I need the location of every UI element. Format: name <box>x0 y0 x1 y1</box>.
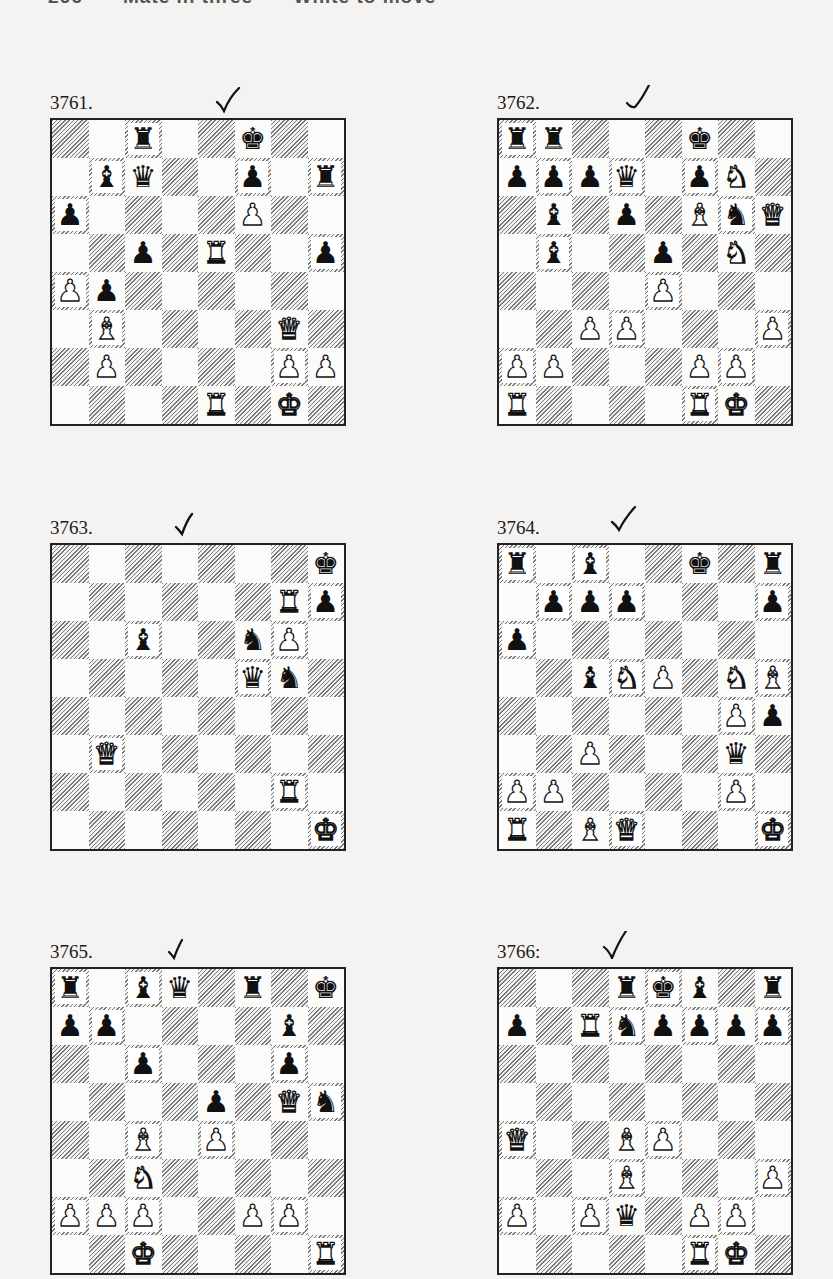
black-rook-icon: ♜ <box>239 973 266 1003</box>
square-a4 <box>52 1121 89 1159</box>
square-b4 <box>536 697 573 735</box>
black-rook-icon: ♜ <box>504 124 531 154</box>
black-knight-icon: ♞ <box>276 663 303 693</box>
square-d5: ♞ <box>609 659 646 697</box>
square-d6: ♟ <box>609 196 646 234</box>
square-b2 <box>536 1197 573 1235</box>
black-pawn-icon: ♟ <box>686 162 713 192</box>
square-b1 <box>536 386 573 424</box>
square-e8 <box>645 120 682 158</box>
square-d3 <box>162 310 199 348</box>
black-pawn-icon: ♟ <box>613 200 640 230</box>
square-b7 <box>536 1007 573 1045</box>
white-rook-icon: ♜ <box>504 390 531 420</box>
black-queen-icon: ♛ <box>166 973 193 1003</box>
square-b2: ♟ <box>536 348 573 386</box>
square-f8: ♚ <box>682 120 719 158</box>
square-h2: ♟ <box>308 348 345 386</box>
black-queen-icon: ♛ <box>613 1201 640 1231</box>
square-a8 <box>499 969 536 1007</box>
page-header: 266 Mate in three White to move <box>48 0 470 8</box>
square-b2: ♟ <box>89 1197 126 1235</box>
square-g5: ♛ <box>271 1083 308 1121</box>
square-g4: ♟ <box>718 697 755 735</box>
checkmark-icon <box>609 506 637 534</box>
square-h4 <box>755 272 792 310</box>
square-b7: ♝ <box>89 158 126 196</box>
black-pawn-icon: ♟ <box>57 1011 84 1041</box>
square-h3: ♟ <box>755 310 792 348</box>
square-f5: ♛ <box>235 659 272 697</box>
square-e3 <box>645 735 682 773</box>
square-c3: ♟ <box>572 310 609 348</box>
square-h2 <box>755 773 792 811</box>
square-h7 <box>755 158 792 196</box>
square-h1 <box>755 386 792 424</box>
square-h1 <box>755 1235 792 1273</box>
square-h6 <box>308 196 345 234</box>
square-a1 <box>52 386 89 424</box>
black-pawn-icon: ♟ <box>93 1011 120 1041</box>
square-b5 <box>536 659 573 697</box>
black-queen-icon: ♛ <box>239 663 266 693</box>
square-c1 <box>125 386 162 424</box>
square-c8: ♜ <box>125 120 162 158</box>
square-c2: ♟ <box>572 1197 609 1235</box>
square-b7 <box>89 583 126 621</box>
puzzle-number: 3762. <box>497 93 540 112</box>
white-pawn-icon: ♟ <box>57 276 84 306</box>
square-f7 <box>682 583 719 621</box>
square-g5: ♞ <box>718 234 755 272</box>
square-f7 <box>235 583 272 621</box>
black-rook-icon: ♜ <box>613 973 640 1003</box>
square-a2: ♟ <box>499 348 536 386</box>
square-b6: ♝ <box>536 196 573 234</box>
square-c7: ♟ <box>572 583 609 621</box>
white-king-icon: ♚ <box>723 390 750 420</box>
square-h3: ♟ <box>755 1159 792 1197</box>
white-rook-icon: ♜ <box>203 238 230 268</box>
square-a1 <box>499 1235 536 1273</box>
square-a4 <box>499 272 536 310</box>
square-d8: ♛ <box>162 969 199 1007</box>
square-c4 <box>572 697 609 735</box>
square-c8: ♝ <box>572 545 609 583</box>
square-g7: ♟ <box>718 1007 755 1045</box>
square-e2 <box>645 1197 682 1235</box>
square-d3: ♝ <box>609 1159 646 1197</box>
square-a5 <box>499 234 536 272</box>
square-c8 <box>572 969 609 1007</box>
square-d4 <box>162 697 199 735</box>
square-e4: ♟ <box>645 272 682 310</box>
black-rook-icon: ♜ <box>759 549 786 579</box>
square-d1 <box>162 386 199 424</box>
chess-board: ♜♜♚♟♟♟♛♟♞♝♟♝♞♛♝♟♞♟♟♟♟♟♟♟♟♜♜♚ <box>497 118 793 426</box>
square-g7: ♞ <box>718 158 755 196</box>
square-h3 <box>308 1159 345 1197</box>
square-f8: ♜ <box>235 969 272 1007</box>
square-e1: ♜ <box>198 386 235 424</box>
square-e1 <box>198 1235 235 1273</box>
white-king-icon: ♚ <box>723 1239 750 1269</box>
square-d6 <box>162 1045 199 1083</box>
square-a6 <box>52 621 89 659</box>
square-c3 <box>572 1159 609 1197</box>
chess-board: ♜♚♝♛♟♜♟♟♟♜♟♟♟♝♛♟♟♟♜♚ <box>50 118 346 426</box>
square-d2 <box>609 773 646 811</box>
white-pawn-icon: ♟ <box>130 1201 157 1231</box>
square-f4 <box>682 1121 719 1159</box>
square-a7: ♟ <box>499 1007 536 1045</box>
square-f4 <box>682 697 719 735</box>
square-b5: ♝ <box>536 234 573 272</box>
black-bishop-icon: ♝ <box>130 973 157 1003</box>
puzzle-number: 3765. <box>50 942 93 961</box>
square-b2: ♟ <box>536 773 573 811</box>
square-g5: ♞ <box>718 659 755 697</box>
square-e8 <box>645 545 682 583</box>
white-rook-icon: ♜ <box>577 1011 604 1041</box>
white-pawn-icon: ♟ <box>650 276 677 306</box>
square-f6: ♞ <box>235 621 272 659</box>
black-king-icon: ♚ <box>686 549 713 579</box>
square-d8 <box>162 545 199 583</box>
black-bishop-icon: ♝ <box>540 238 567 268</box>
